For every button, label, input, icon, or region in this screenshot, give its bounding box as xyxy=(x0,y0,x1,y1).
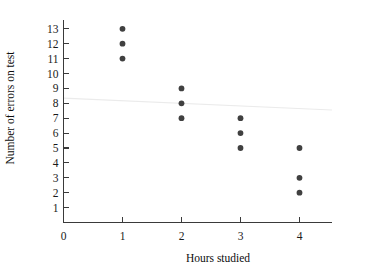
data-point xyxy=(238,115,244,121)
axes-group xyxy=(64,20,332,223)
y-tick-label: 8 xyxy=(53,97,59,109)
x-tick-label: 2 xyxy=(179,230,185,242)
trend-line-group xyxy=(64,98,332,110)
y-axis-label: Number of errors on test xyxy=(4,51,16,165)
tick-marks-group xyxy=(64,29,300,223)
x-tick-label: 3 xyxy=(238,230,244,242)
y-tick-label: 1 xyxy=(53,202,59,214)
trend-line xyxy=(64,98,332,110)
y-tick-label: 5 xyxy=(53,142,59,154)
y-tick-label: 9 xyxy=(53,82,59,94)
x-tick-label: 0 xyxy=(61,230,67,242)
y-tick-label: 13 xyxy=(47,23,59,35)
data-point xyxy=(120,41,126,47)
y-tick-label: 2 xyxy=(53,187,59,199)
y-tick-label: 3 xyxy=(53,172,59,184)
x-axis-tick-labels: 01234 xyxy=(61,230,303,242)
data-point xyxy=(120,56,126,62)
data-point xyxy=(179,86,185,92)
y-tick-label: 7 xyxy=(53,112,59,124)
scatter-plot-figure: 12345678910111213 01234 Hours studied Nu… xyxy=(0,0,373,267)
data-point xyxy=(179,100,185,106)
data-point xyxy=(120,26,126,32)
data-point xyxy=(297,145,303,151)
y-tick-label: 10 xyxy=(47,68,59,80)
data-point xyxy=(238,130,244,136)
data-point xyxy=(179,115,185,121)
y-tick-label: 4 xyxy=(53,157,59,169)
x-axis-label: Hours studied xyxy=(186,252,250,264)
data-point xyxy=(297,175,303,181)
y-tick-label: 11 xyxy=(47,53,58,65)
y-tick-label: 6 xyxy=(53,127,59,139)
data-points-group xyxy=(120,26,303,196)
data-point xyxy=(238,145,244,151)
plot-canvas: 12345678910111213 01234 Hours studied Nu… xyxy=(0,0,373,267)
y-axis-tick-labels: 12345678910111213 xyxy=(47,23,59,214)
data-point xyxy=(297,190,303,196)
x-tick-label: 1 xyxy=(120,230,126,242)
x-tick-label: 4 xyxy=(297,230,303,242)
y-tick-label: 12 xyxy=(47,38,59,50)
